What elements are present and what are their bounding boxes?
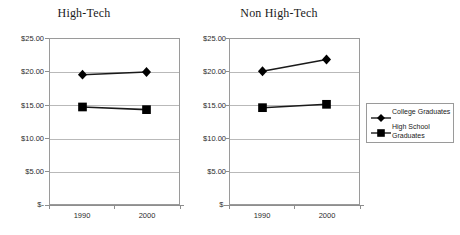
series-college-graduates [78, 67, 151, 80]
legend-item-college-graduates: College Graduates [370, 108, 450, 119]
x-tick-mark-end [360, 205, 361, 209]
diamond-marker-icon [370, 109, 392, 119]
legend-label-high-school-graduates: High School Graduates [392, 123, 430, 140]
chart-panel-high-tech: High-Tech $25.00 $20.00 $15.00 $10.00 $5… [0, 0, 196, 235]
y-axis-label-10: $10.00 [2, 135, 44, 143]
y-axis-label-0: $- [2, 201, 44, 209]
x-tick-mark-start [49, 205, 50, 209]
x-tick-mark-mid [294, 205, 295, 209]
y-axis-label-20: $20.00 [184, 68, 226, 76]
y-axis-label-25: $25.00 [184, 35, 226, 43]
figure: High-Tech $25.00 $20.00 $15.00 $10.00 $5… [0, 0, 460, 235]
gridline-20 [230, 72, 359, 73]
x-tick-mark-end [180, 205, 181, 209]
gridline-10 [50, 139, 179, 140]
gridline-5 [230, 172, 359, 173]
square-marker-icon [370, 124, 392, 134]
gridline-15 [50, 105, 179, 106]
series-layer-high-tech [50, 39, 179, 204]
legend-item-high-school-graduates: High School Graduates [370, 123, 430, 140]
gridline-5 [50, 172, 179, 173]
legend-label-college-graduates: College Graduates [392, 108, 450, 117]
plot-area-non-high-tech [229, 38, 360, 205]
y-axis-label-5: $5.00 [2, 168, 44, 176]
y-axis-label-20: $20.00 [2, 68, 44, 76]
x-axis-label-2000: 2000 [127, 212, 167, 220]
chart-title-non-high-tech: Non High-Tech [190, 6, 368, 21]
y-axis-label-25: $25.00 [2, 35, 44, 43]
gridline-20 [50, 72, 179, 73]
x-tick-mark-mid [114, 205, 115, 209]
plot-area-high-tech [49, 38, 180, 205]
gridline-10 [230, 139, 359, 140]
chart-panel-non-high-tech: Non High-Tech $25.00 $20.00 $15.00 $10.0… [188, 0, 366, 235]
gridline-15 [230, 105, 359, 106]
x-axis-label-1990: 1990 [62, 212, 102, 220]
y-axis-label-5: $5.00 [184, 168, 226, 176]
series-layer-non-high-tech [230, 39, 359, 204]
x-tick-mark-start [229, 205, 230, 209]
x-axis-label-1990: 1990 [242, 212, 282, 220]
y-axis-label-0: $- [184, 201, 226, 209]
x-axis-label-2000: 2000 [307, 212, 347, 220]
chart-legend: College Graduates High School Graduates [366, 103, 454, 143]
y-axis-label-10: $10.00 [184, 135, 226, 143]
y-axis-label-15: $15.00 [184, 102, 226, 110]
chart-title-high-tech: High-Tech [0, 6, 182, 21]
y-axis-label-15: $15.00 [2, 102, 44, 110]
